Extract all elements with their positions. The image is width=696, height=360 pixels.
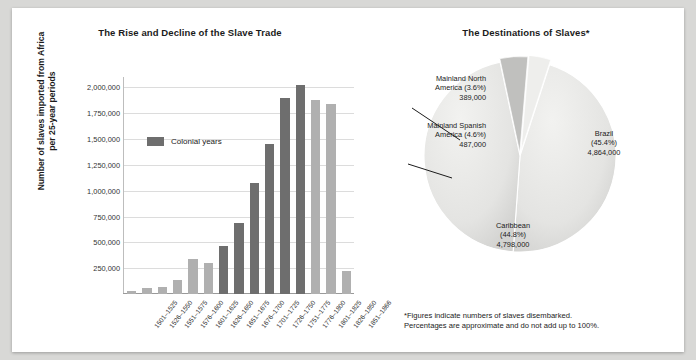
- bar: [250, 183, 260, 294]
- bar: [342, 271, 352, 294]
- y-tick-label: 750,000: [93, 212, 120, 221]
- footnote-line2: Percentages are approximate and do not a…: [404, 321, 599, 330]
- y-axis-label-line2: per 25-year periods: [47, 71, 57, 150]
- y-axis-line: [123, 77, 124, 294]
- callout-mainland-north-america: Mainland North America (3.6%) 389,000: [374, 74, 486, 102]
- y-tick-label: 1,250,000: [87, 160, 120, 169]
- y-tick-label: 2,000,000: [87, 83, 120, 92]
- pie-label-caribbean: Caribbean (44.8%) 4,798,000: [474, 221, 552, 249]
- pie-label-caribbean-pct: (44.8%): [500, 230, 526, 239]
- callout-na-value: 389,000: [459, 93, 486, 102]
- pie-chart-footnote: *Figures indicate numbers of slaves dise…: [404, 311, 684, 332]
- bar: [188, 259, 198, 294]
- pie-label-brazil: Brazil (45.4%) 4,864,000: [568, 129, 640, 157]
- bar-chart-legend: Colonial years: [147, 137, 222, 146]
- bar-chart-x-ticks: 1501–15251526–15501551–15751576–16001601…: [124, 297, 354, 357]
- pie-label-brazil-pct: (45.4%): [591, 138, 617, 147]
- legend-label-colonial-years: Colonial years: [171, 137, 222, 146]
- y-tick-label: 1,500,000: [87, 135, 120, 144]
- bar: [265, 144, 275, 294]
- bar: [158, 287, 168, 294]
- footnote-line1: *Figures indicate numbers of slaves dise…: [404, 311, 572, 320]
- bar: [219, 246, 229, 294]
- callout-sa-line1: Mainland Spanish: [427, 121, 486, 130]
- y-axis-label-line1: Number of slaves imported from Africa: [36, 32, 46, 191]
- y-tick-label: 500,000: [93, 238, 120, 247]
- y-tick-label: 1,750,000: [87, 109, 120, 118]
- bar: [127, 291, 137, 294]
- pie-label-brazil-value: 4,864,000: [588, 148, 621, 157]
- bar: [142, 288, 152, 294]
- bar: [173, 280, 183, 294]
- callout-na-line2: America (3.6%): [435, 83, 486, 92]
- y-tick-label: 250,000: [93, 264, 120, 273]
- pie-chart-panel: The Destinations of Slaves* Mainlan: [368, 8, 684, 352]
- bar: [280, 98, 290, 294]
- bar: [234, 223, 244, 294]
- bar-chart-y-axis-label: Number of slaves imported from Africa pe…: [36, 16, 58, 206]
- bar-chart-y-ticks: 250,000500,000750,0001,000,0001,250,0001…: [70, 77, 120, 294]
- bar: [204, 263, 214, 294]
- callout-na-line1: Mainland North: [436, 74, 486, 83]
- pie-label-caribbean-value: 4,798,000: [497, 240, 530, 249]
- pie-label-brazil-name: Brazil: [595, 129, 613, 138]
- callout-sa-value: 487,000: [459, 140, 486, 149]
- callout-sa-line2: America (4.6%): [435, 130, 486, 139]
- pie-label-caribbean-name: Caribbean: [496, 221, 530, 230]
- callout-mainland-spanish-america: Mainland Spanish America (4.6%) 487,000: [360, 121, 486, 149]
- y-tick-label: 1,000,000: [87, 186, 120, 195]
- figure-card: The Rise and Decline of the Slave Trade …: [12, 8, 684, 352]
- legend-swatch-colonial-years: [147, 137, 164, 146]
